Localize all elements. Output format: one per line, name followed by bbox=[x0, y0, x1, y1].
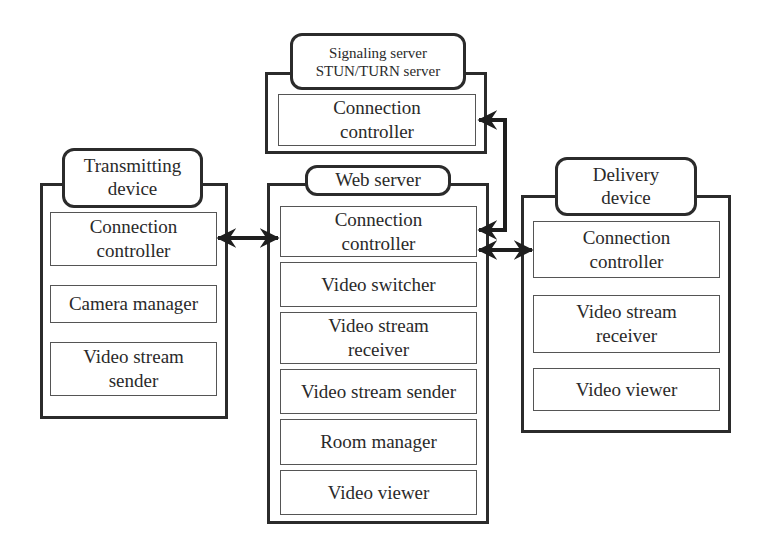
signaling-server-title-line1: Signaling server bbox=[329, 44, 427, 62]
web-video-switcher: Video switcher bbox=[280, 262, 477, 307]
transmitting-device-title: Transmitting device bbox=[62, 148, 203, 208]
web-video-stream-sender: Video stream sender bbox=[280, 369, 477, 414]
web-connection-controller: Connection controller bbox=[280, 206, 477, 257]
signaling-server-title-line2: STUN/TURN server bbox=[316, 62, 441, 80]
web-room-manager: Room manager bbox=[280, 419, 477, 465]
delivery-video-viewer: Video viewer bbox=[533, 368, 720, 411]
delivery-device-title-line1: Delivery bbox=[593, 164, 659, 187]
delivery-video-stream-receiver: Video stream receiver bbox=[533, 295, 720, 353]
signaling-server-title: Signaling server STUN/TURN server bbox=[290, 33, 466, 90]
transmitting-camera-manager: Camera manager bbox=[50, 285, 217, 323]
signaling-connection-controller: Connection controller bbox=[278, 94, 476, 146]
delivery-connection-controller: Connection controller bbox=[533, 221, 720, 278]
web-server-title: Web server bbox=[305, 165, 451, 196]
delivery-device-title: Delivery device bbox=[555, 157, 697, 216]
web-video-viewer: Video viewer bbox=[280, 470, 477, 515]
web-video-stream-receiver: Video stream receiver bbox=[280, 312, 477, 364]
transmitting-video-stream-sender: Video stream sender bbox=[50, 342, 217, 396]
transmitting-device-title-line1: Transmitting bbox=[84, 155, 182, 178]
delivery-device-title-line2: device bbox=[601, 187, 651, 210]
transmitting-connection-controller: Connection controller bbox=[50, 212, 217, 266]
transmitting-device-title-line2: device bbox=[108, 178, 158, 201]
